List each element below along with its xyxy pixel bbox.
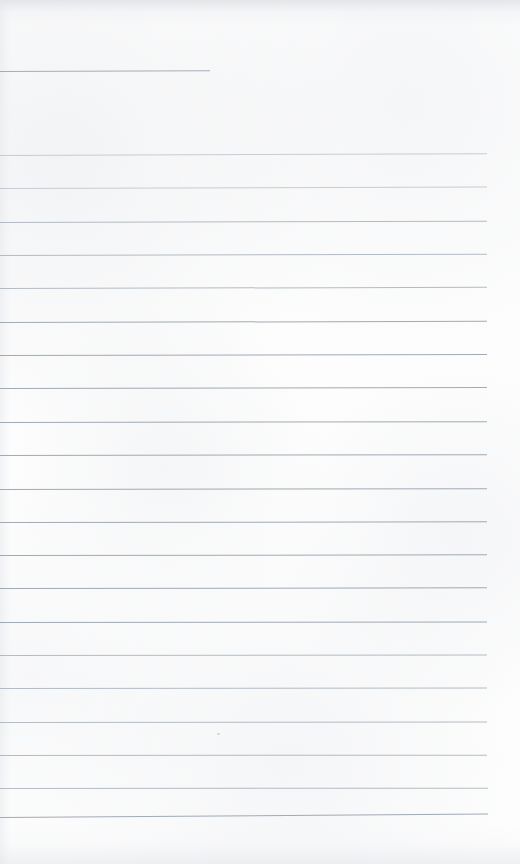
rule-7: [0, 354, 487, 356]
scan-shade-bottom: [0, 824, 520, 864]
rule-17: [0, 687, 487, 689]
rule-21: [0, 814, 488, 818]
rule-8: [0, 387, 487, 389]
rule-20: [0, 788, 488, 789]
notebook-page: [0, 0, 520, 864]
paper-speck: [217, 733, 220, 735]
rule-16: [0, 654, 487, 656]
rule-4: [0, 254, 487, 256]
rule-5: [0, 287, 487, 289]
rule-2: [0, 186, 487, 189]
rule-12: [0, 521, 487, 523]
scan-shade-left: [0, 0, 10, 864]
rule-6: [0, 321, 487, 323]
scan-shade-top: [0, 0, 520, 26]
rule-15: [0, 621, 487, 623]
rule-14: [0, 587, 487, 589]
rule-1: [0, 153, 487, 156]
rule-18: [0, 721, 487, 723]
rule-9: [0, 421, 487, 423]
rule-19: [0, 755, 487, 756]
rule-partial-1: [0, 70, 210, 72]
rule-3: [0, 221, 487, 223]
rule-10: [0, 454, 487, 456]
rule-13: [0, 554, 487, 556]
rule-11: [0, 488, 487, 490]
